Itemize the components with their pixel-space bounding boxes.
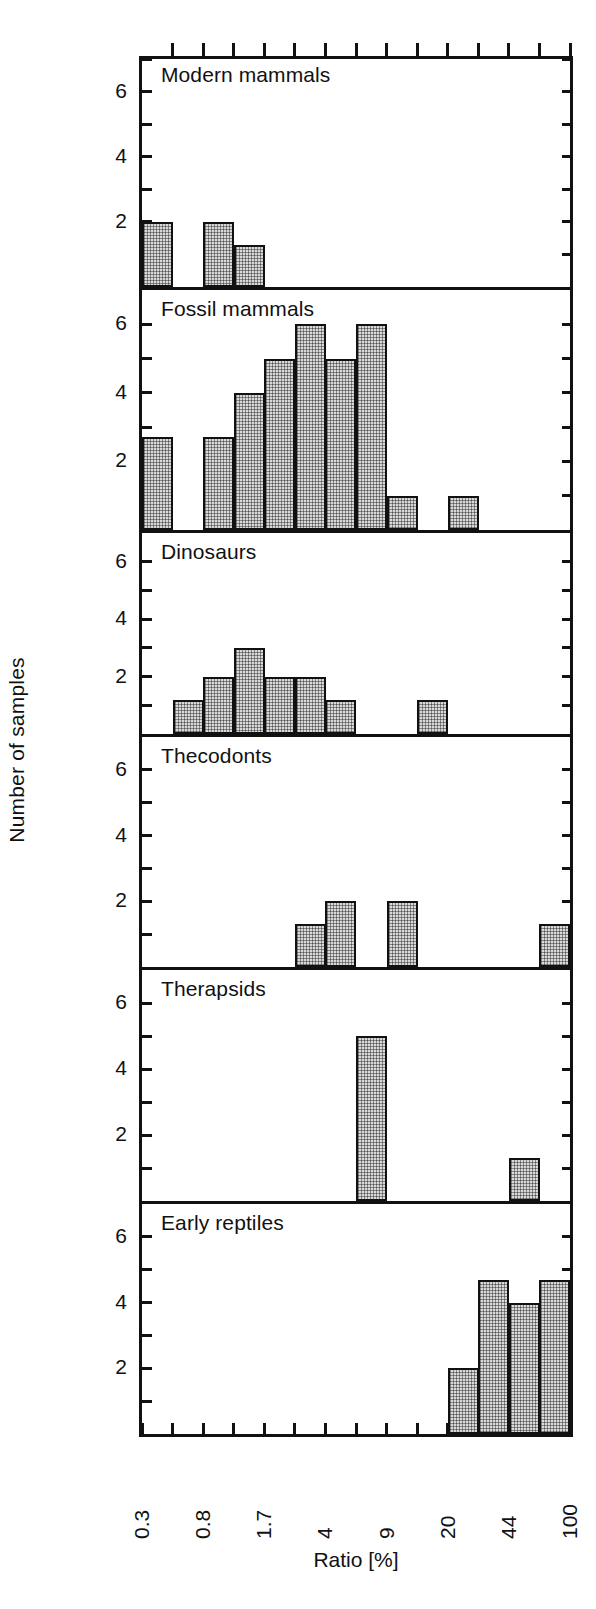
x-tick xyxy=(416,1423,419,1437)
top-tick xyxy=(477,43,480,56)
histogram-bar xyxy=(325,359,356,530)
top-tick xyxy=(416,43,419,56)
panel-modern-mammals: Modern mammals246 xyxy=(139,56,573,290)
x-tick xyxy=(141,1423,144,1437)
histogram-bar xyxy=(142,222,173,287)
top-tick-row xyxy=(139,56,573,57)
histogram-bar xyxy=(325,700,356,734)
x-tick-label: 4 xyxy=(314,1443,336,1539)
x-tick xyxy=(324,1423,327,1437)
y-tick-label: 4 xyxy=(87,1056,127,1080)
histogram-bar xyxy=(387,496,418,530)
x-tick xyxy=(171,1423,174,1437)
x-tick xyxy=(385,1423,388,1437)
histogram-bar xyxy=(142,437,173,530)
panel-therapsids: Therapsids246 xyxy=(139,970,573,1204)
y-tick-label: 6 xyxy=(87,990,127,1014)
x-tick-label: 20 xyxy=(437,1443,459,1539)
x-tick xyxy=(446,1423,449,1437)
x-tick-label: 0.3 xyxy=(131,1443,153,1539)
y-tick-label: 6 xyxy=(87,1224,127,1248)
x-tick xyxy=(232,1423,235,1437)
x-tick xyxy=(569,1423,572,1437)
histogram-bar xyxy=(417,700,448,734)
y-tick-label: 2 xyxy=(87,448,127,472)
y-tick-label: 6 xyxy=(87,311,127,335)
histogram-bar xyxy=(509,1303,540,1434)
x-tick-label: 44 xyxy=(498,1443,520,1539)
histogram-bar xyxy=(234,648,265,734)
y-tick-label: 2 xyxy=(87,1355,127,1379)
histogram-bar xyxy=(264,359,295,530)
x-tick xyxy=(202,1423,205,1437)
y-tick-label: 2 xyxy=(87,209,127,233)
bar-group xyxy=(142,56,570,287)
top-tick xyxy=(263,43,266,56)
y-tick-label: 6 xyxy=(87,79,127,103)
histogram-bar xyxy=(509,1158,540,1201)
x-tick-label: 100 xyxy=(559,1443,581,1539)
bar-group xyxy=(142,1204,570,1434)
histogram-bar xyxy=(295,324,326,530)
top-tick xyxy=(171,43,174,56)
top-tick xyxy=(324,43,327,56)
panel-stack: Modern mammals246Fossil mammals246Dinosa… xyxy=(139,56,573,1437)
bar-group xyxy=(142,533,570,734)
histogram-bar xyxy=(173,700,204,734)
x-tick-label: 9 xyxy=(376,1443,398,1539)
top-tick xyxy=(293,43,296,56)
top-tick xyxy=(446,43,449,56)
y-axis-title: Number of samples xyxy=(0,530,34,970)
y-tick-label: 6 xyxy=(87,757,127,781)
histogram-bar xyxy=(387,901,418,967)
y-tick-label: 2 xyxy=(87,1122,127,1146)
panel-fossil-mammals: Fossil mammals246 xyxy=(139,290,573,533)
x-tick xyxy=(263,1423,266,1437)
histogram-bar xyxy=(539,1280,570,1434)
top-tick xyxy=(355,43,358,56)
histogram-bar xyxy=(203,222,234,287)
y-tick-label: 2 xyxy=(87,888,127,912)
panel-thecodonts: Thecodonts246 xyxy=(139,737,573,970)
histogram-bar xyxy=(356,324,387,530)
histogram-bar xyxy=(448,1368,479,1434)
y-tick-label: 4 xyxy=(87,823,127,847)
histogram-bar xyxy=(356,1036,387,1201)
histogram-bar xyxy=(203,437,234,530)
x-tick-label: 1.7 xyxy=(253,1443,275,1539)
histogram-figure: Number of samples Modern mammals246Fossi… xyxy=(0,0,596,1609)
histogram-bar xyxy=(448,496,479,530)
panel-dinosaurs: Dinosaurs246 xyxy=(139,533,573,737)
x-tick xyxy=(293,1423,296,1437)
y-tick-label: 2 xyxy=(87,664,127,688)
x-tick xyxy=(477,1423,480,1437)
top-tick xyxy=(507,43,510,56)
x-axis-tick-row xyxy=(139,1437,573,1438)
y-tick-label: 4 xyxy=(87,380,127,404)
x-tick-label: 0.8 xyxy=(192,1443,214,1539)
top-tick xyxy=(569,43,572,56)
histogram-bar xyxy=(539,924,570,967)
y-tick-label: 4 xyxy=(87,144,127,168)
histogram-bar xyxy=(234,393,265,530)
top-tick xyxy=(538,43,541,56)
histogram-bar xyxy=(264,677,295,734)
histogram-bar xyxy=(203,677,234,734)
bar-group xyxy=(142,737,570,967)
top-tick xyxy=(385,43,388,56)
x-axis-title: Ratio [%] xyxy=(139,1548,573,1572)
top-tick xyxy=(202,43,205,56)
histogram-bar xyxy=(295,677,326,734)
x-tick xyxy=(355,1423,358,1437)
histogram-bar xyxy=(234,245,265,287)
histogram-bar xyxy=(478,1280,509,1434)
y-tick-label: 4 xyxy=(87,1290,127,1314)
bar-group xyxy=(142,290,570,530)
histogram-bar xyxy=(295,924,326,967)
x-axis-tick-labels: 0.30.81.7492044100 xyxy=(139,1443,573,1539)
top-tick xyxy=(232,43,235,56)
panel-early-reptiles: Early reptiles246 xyxy=(139,1204,573,1437)
bar-group xyxy=(142,970,570,1201)
y-tick-label: 6 xyxy=(87,549,127,573)
x-tick xyxy=(538,1423,541,1437)
